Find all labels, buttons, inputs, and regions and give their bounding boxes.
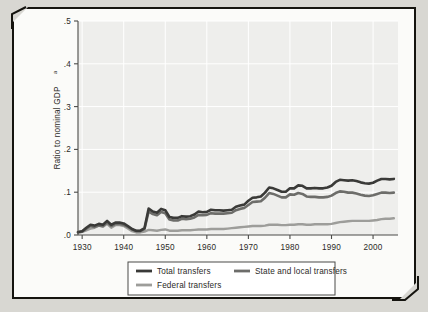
y-tick-label: .1 xyxy=(64,188,71,197)
y-tick-label: .2 xyxy=(64,145,71,154)
chart-legend: Total transfersState and local transfers… xyxy=(128,262,347,295)
x-tick-label: 2000 xyxy=(364,243,383,252)
legend-label: State and local transfers xyxy=(255,267,347,276)
legend-label: Total transfers xyxy=(157,267,211,276)
x-tick-label: 1960 xyxy=(197,243,216,252)
x-tick-label: 1950 xyxy=(156,243,175,252)
y-axis-ticks: .0.1.2.3.4.5 xyxy=(64,17,78,240)
y-tick-label: .3 xyxy=(64,103,71,112)
plot-panel-background xyxy=(78,21,398,235)
x-tick-label: 1980 xyxy=(280,243,299,252)
x-tick-label: 1990 xyxy=(322,243,341,252)
y-axis-title: Ratio to nominal GDP a xyxy=(52,70,62,170)
x-tick-label: 1940 xyxy=(114,243,133,252)
x-axis-ticks: 19301940195019601970198019902000 xyxy=(73,235,383,252)
y-axis-title-text: Ratio to nominal GDP xyxy=(53,86,62,170)
x-tick-label: 1970 xyxy=(239,243,258,252)
line-chart-figure: .0.1.2.3.4.5 193019401950196019701980199… xyxy=(0,0,428,312)
x-tick-label: 1930 xyxy=(73,243,92,252)
y-axis-title-superscript: a xyxy=(52,70,58,74)
y-tick-label: .0 xyxy=(64,231,71,240)
y-tick-label: .4 xyxy=(64,60,71,69)
legend-label: Federal transfers xyxy=(157,281,221,290)
y-tick-label: .5 xyxy=(64,17,71,26)
